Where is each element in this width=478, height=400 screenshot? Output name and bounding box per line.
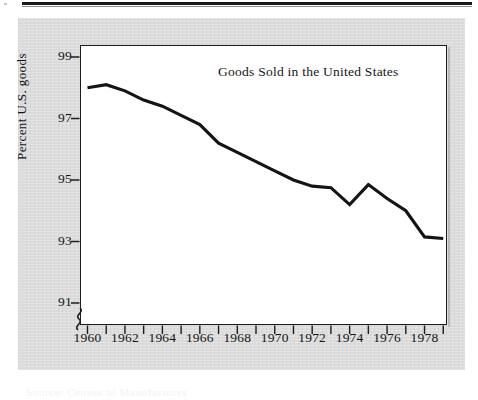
x-axis-tick-label: 1962	[111, 330, 139, 346]
x-axis-tick-label: 1972	[298, 330, 326, 346]
y-axis-tick-label: 99	[58, 48, 72, 64]
x-axis-tick-label: 1966	[186, 330, 214, 346]
y-axis-tick-label: 93	[58, 233, 72, 249]
x-axis-tick-label: 1974	[336, 330, 364, 346]
y-axis-break-icon	[77, 308, 82, 330]
plot-title: Goods Sold in the United States	[218, 64, 399, 80]
data-line-percent-us-goods	[87, 85, 443, 239]
y-axis-tick-label: 91	[58, 294, 72, 310]
x-axis-tick-label: 1978	[411, 330, 439, 346]
x-axis-tick-label: 1968	[223, 330, 251, 346]
y-axis-tick-label: 97	[58, 110, 72, 126]
y-axis-title: Percent U.S. goods	[14, 20, 30, 160]
x-axis-tick-label: 1976	[373, 330, 401, 346]
x-axis-tick-label: 1970	[261, 330, 289, 346]
figure-caption-ghost: Source: Census of Manufactures	[26, 386, 187, 398]
x-axis-tick-labels: 1960196219641966196819701972197419761978	[0, 330, 478, 354]
x-axis-tick-label: 1960	[74, 330, 102, 346]
x-axis-tick-label: 1964	[148, 330, 176, 346]
y-axis-tick-label: 95	[58, 171, 72, 187]
